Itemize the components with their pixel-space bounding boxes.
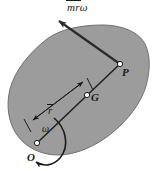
point-marker-o <box>34 140 39 145</box>
point-label-o: O <box>27 152 35 163</box>
dynamics-diagram: mrω P G r ω O <box>0 0 159 171</box>
force-label-omega: ω <box>80 1 88 13</box>
point-label-g: G <box>91 92 99 103</box>
angular-velocity-label: ω <box>42 124 49 134</box>
point-marker-g <box>84 92 89 97</box>
force-label-radius: r <box>75 1 80 13</box>
point-label-p: P <box>122 67 129 78</box>
rigid-body-blob <box>8 25 149 155</box>
radius-label-text: r <box>48 104 52 116</box>
force-vector-label: mrω <box>67 2 88 13</box>
force-label-mass: m <box>67 1 75 13</box>
diagram-canvas <box>0 0 159 171</box>
radius-label: r <box>48 105 52 116</box>
